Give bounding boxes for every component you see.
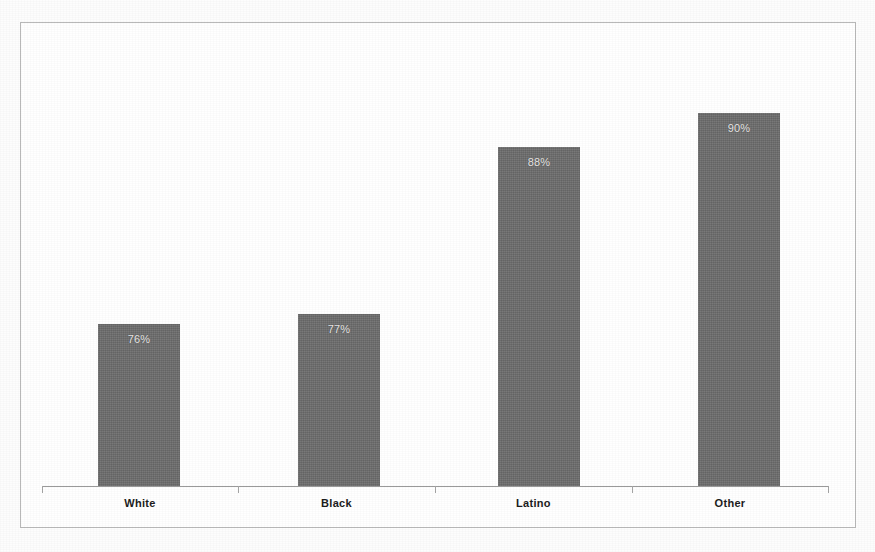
bar-value-label-white: 76% xyxy=(98,333,180,345)
x-axis-label-latino: Latino xyxy=(435,497,632,509)
x-axis-label-other: Other xyxy=(632,497,828,509)
plot-area: 76% 77% 88% 90% White Black Latino Other xyxy=(0,0,875,552)
bar-value-label-other: 90% xyxy=(698,122,780,134)
bar-white: 76% xyxy=(98,324,180,486)
x-axis-tick xyxy=(238,486,239,493)
x-axis-tick xyxy=(435,486,436,493)
x-axis-tick xyxy=(42,486,43,493)
x-axis-label-black: Black xyxy=(238,497,435,509)
bar-black: 77% xyxy=(298,314,380,486)
bar-value-label-black: 77% xyxy=(298,323,380,335)
bar-chart-figure: 76% 77% 88% 90% White Black Latino Other xyxy=(0,0,875,552)
x-axis-label-white: White xyxy=(42,497,238,509)
bar-latino: 88% xyxy=(498,147,580,486)
bar-other: 90% xyxy=(698,113,780,486)
x-axis-tick xyxy=(632,486,633,493)
x-axis-tick xyxy=(828,486,829,493)
bar-value-label-latino: 88% xyxy=(498,156,580,168)
